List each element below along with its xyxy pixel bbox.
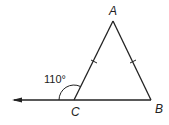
- triangle-diagram: 110° A C B: [0, 0, 169, 125]
- vertex-label-b: B: [155, 102, 163, 116]
- vertex-label-c: C: [71, 105, 80, 119]
- vertex-label-a: A: [108, 4, 117, 18]
- ray-arrowhead-icon: [12, 98, 22, 103]
- side-ab: [113, 21, 151, 100]
- side-ca: [74, 21, 113, 100]
- angle-label: 110°: [44, 73, 66, 85]
